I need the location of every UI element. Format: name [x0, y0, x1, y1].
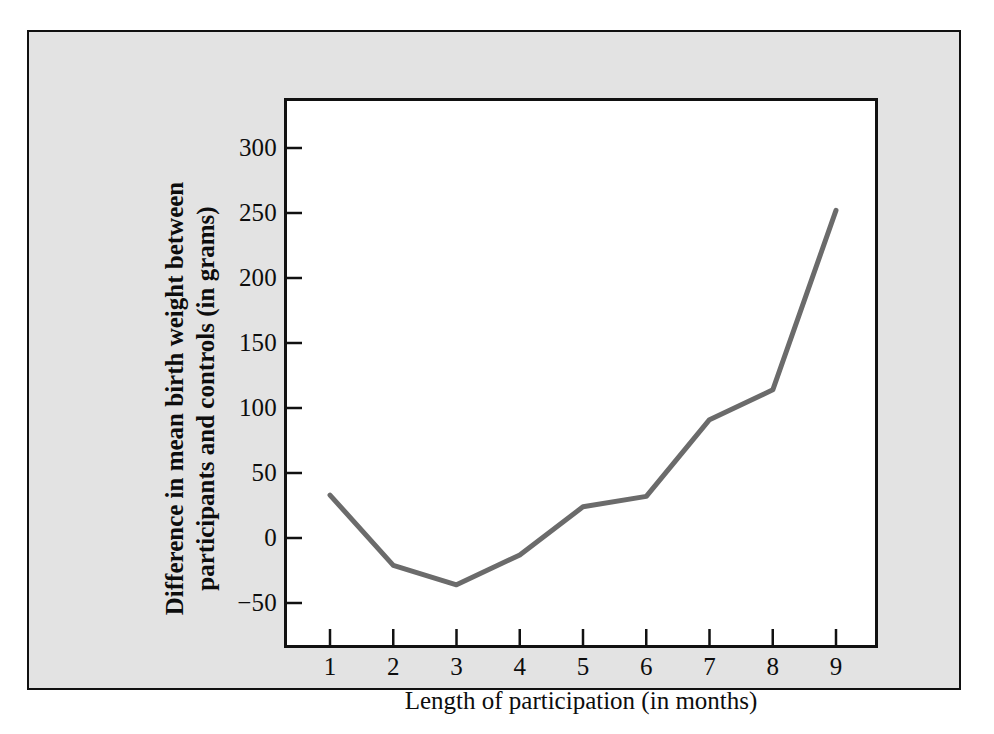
- x-tick-label: 7: [690, 654, 730, 679]
- figure-root: Difference in mean birth weight between …: [0, 0, 994, 734]
- x-axis-title: Length of participation (in months): [284, 687, 878, 715]
- x-axis-tick-labels: 123456789: [29, 32, 994, 734]
- x-tick-label: 5: [563, 654, 603, 679]
- x-tick-label: 4: [500, 654, 540, 679]
- x-tick-label: 8: [753, 654, 793, 679]
- x-tick-label: 3: [437, 654, 477, 679]
- x-tick-label: 9: [816, 654, 856, 679]
- x-tick-label: 2: [373, 654, 413, 679]
- figure-panel: Difference in mean birth weight between …: [27, 30, 961, 690]
- x-tick-label: 6: [626, 654, 666, 679]
- x-tick-label: 1: [310, 654, 350, 679]
